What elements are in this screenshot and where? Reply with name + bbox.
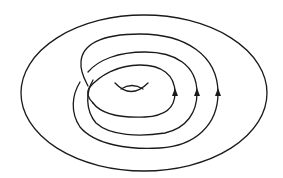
- torus-outer-boundary: [21, 15, 267, 171]
- torus-diagram: [0, 0, 283, 178]
- arrow-up-icon: [194, 88, 200, 96]
- torus-hole: [115, 83, 148, 92]
- arrow-up-icon: [172, 88, 178, 96]
- arrow-up-icon: [215, 88, 221, 96]
